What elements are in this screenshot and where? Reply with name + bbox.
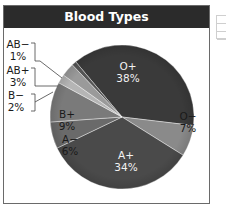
- pie-chart: O+38%O−7%A+34%A−6%B+9%B−2%AB+3%AB−1%: [0, 0, 226, 215]
- callout-ab-plus: [31, 68, 58, 86]
- slice-label: O−: [179, 110, 196, 122]
- slice-percentage: 7%: [180, 122, 197, 134]
- slice-label: O+: [119, 60, 136, 72]
- slice-percentage: 9%: [59, 120, 76, 132]
- slice-label: A+: [118, 149, 134, 161]
- slice-label: A−: [62, 133, 78, 145]
- slice-label: B+: [59, 108, 75, 120]
- slice-percentage: 3%: [10, 76, 27, 88]
- slice-percentage: 34%: [114, 161, 137, 173]
- callout-ab-minus: [31, 43, 62, 78]
- slice-percentage: 2%: [8, 101, 25, 113]
- callout-b-minus: [31, 92, 53, 111]
- slice-label: B−: [8, 89, 24, 101]
- slice-percentage: 6%: [62, 145, 79, 157]
- slice-label: AB+: [6, 64, 29, 76]
- slice-label: AB−: [6, 38, 29, 50]
- slice-percentage: 38%: [116, 72, 139, 84]
- slice-percentage: 1%: [10, 50, 27, 62]
